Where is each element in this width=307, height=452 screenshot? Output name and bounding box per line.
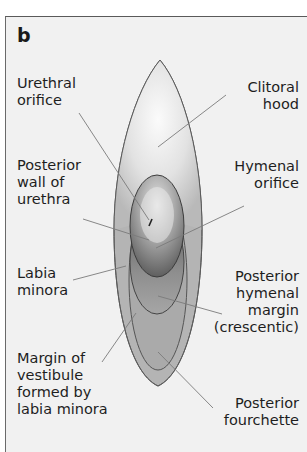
label-labia-minora: Labia minora (17, 265, 68, 299)
label-margin-of-vestibule: Margin of vestibule formed by labia mino… (17, 350, 108, 418)
label-posterior-fourchette: Posterior fourchette (224, 395, 299, 429)
label-clitoral-hood: Clitoral hood (247, 79, 299, 113)
label-urethral-orifice: Urethral orifice (17, 75, 76, 109)
panel-letter: b (17, 24, 31, 46)
label-posterior-wall-of-urethra: Posterior wall of urethra (17, 157, 81, 208)
label-hymenal-orifice: Hymenal orifice (234, 158, 299, 192)
label-posterior-hymenal-margin: Posterior hymenal margin (crescentic) (214, 268, 299, 336)
